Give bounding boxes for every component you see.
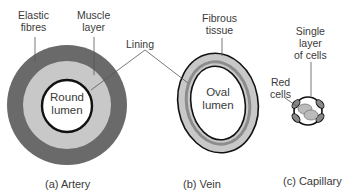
- label-line: of cells: [294, 49, 327, 61]
- label-single-layer-of-cells: Single layer of cells: [294, 25, 327, 61]
- label-round-lumen: Round lumen: [47, 91, 87, 117]
- label-line: Oval: [198, 86, 238, 99]
- label-line: lumen: [47, 104, 87, 117]
- label-line: tissue: [202, 24, 237, 36]
- label-elastic-fibres: Elastic fibres: [18, 9, 49, 33]
- label-line: Round: [47, 91, 87, 104]
- label-lining: Lining: [126, 38, 154, 50]
- caption-capillary: (c) Capillary: [283, 175, 342, 187]
- label-line: Elastic: [18, 9, 49, 21]
- label-line: cells: [270, 88, 291, 100]
- label-oval-lumen: Oval lumen: [198, 86, 238, 112]
- capillary-cross-section: [290, 97, 325, 125]
- label-fibrous-tissue: Fibrous tissue: [202, 12, 237, 36]
- label-line: Single: [294, 25, 327, 37]
- caption-vein: (b) Vein: [183, 178, 221, 190]
- label-line: fibres: [18, 21, 49, 33]
- label-line: lumen: [198, 99, 238, 112]
- label-line: Fibrous: [202, 12, 237, 24]
- label-muscle-layer: Muscle layer: [77, 9, 110, 33]
- label-red-cells: Red cells: [270, 76, 291, 100]
- caption-artery: (a) Artery: [45, 178, 90, 190]
- label-line: layer: [294, 37, 327, 49]
- label-line: Muscle: [77, 9, 110, 21]
- label-line: layer: [77, 21, 110, 33]
- label-line: Red: [270, 76, 291, 88]
